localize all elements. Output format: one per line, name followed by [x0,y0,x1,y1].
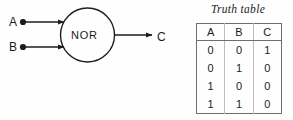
truth-table: A B C 0 0 1 0 1 0 1 0 [196,23,282,114]
figure-root: A B NOR C Truth table A B C 0 0 1 [0,0,293,120]
cell-a: 0 [197,59,225,77]
cell-a: 0 [197,41,225,60]
cell-a: 1 [197,77,225,95]
truth-table-title: Truth table [190,3,286,15]
output-c-label: C [157,31,166,43]
column-header-c: C [253,24,281,41]
cell-b: 1 [225,59,253,77]
cell-b: 1 [225,95,253,114]
gate-schematic-svg [0,0,180,120]
table-row: 0 0 1 [197,41,282,60]
table-row: 1 1 0 [197,95,282,114]
cell-c: 1 [253,41,281,60]
cell-c: 0 [253,95,281,114]
cell-c: 0 [253,59,281,77]
truth-table-header-row: A B C [197,24,282,41]
nor-gate-label: NOR [71,29,98,41]
nor-gate-diagram: A B NOR C [0,0,180,120]
input-b-label: B [9,41,17,53]
cell-b: 0 [225,77,253,95]
table-row: 1 0 0 [197,77,282,95]
cell-c: 0 [253,77,281,95]
cell-a: 1 [197,95,225,114]
column-header-b: B [225,24,253,41]
table-row: 0 1 0 [197,59,282,77]
cell-b: 0 [225,41,253,60]
truth-table-section: Truth table A B C 0 0 1 0 1 0 [190,0,293,120]
input-a-label: A [9,16,17,28]
column-header-a: A [197,24,225,41]
